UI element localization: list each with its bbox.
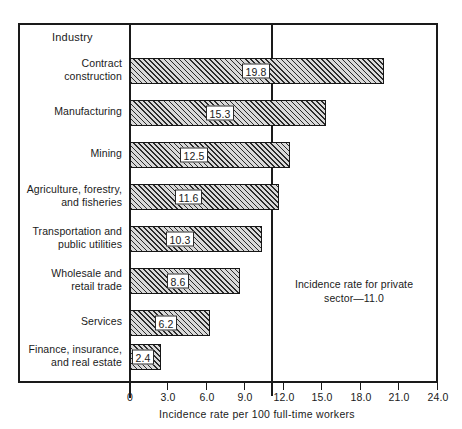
category-label: Mining	[10, 147, 122, 160]
bar-wholesale-retail-trade: 8.6	[130, 268, 240, 294]
x-tick-label: 24.0	[428, 391, 449, 403]
bar-row: Transportation and public utilities 10.3	[0, 223, 462, 259]
x-axis-title: Incidence rate per 100 full-time workers	[0, 408, 462, 420]
bar-value-label: 10.3	[166, 232, 194, 247]
x-tick-mark	[437, 383, 438, 390]
x-tick-label: 21.0	[389, 391, 410, 403]
x-tick-mark	[167, 383, 168, 390]
x-tick-mark	[283, 383, 284, 390]
x-tick-mark	[244, 383, 245, 390]
bar-value-label: 6.2	[155, 316, 177, 331]
bar-value-label: 15.3	[206, 106, 234, 121]
category-label: Wholesale and retail trade	[10, 267, 122, 292]
category-label-line: public utilities	[10, 238, 122, 251]
x-tick-label: 3.0	[161, 391, 176, 403]
category-label-line: Finance, insurance,	[10, 343, 122, 356]
bar-row: Contract construction 19.8	[0, 55, 462, 91]
bar-value-label: 2.4	[132, 350, 154, 365]
category-label-line: Services	[10, 315, 122, 328]
category-label: Services	[10, 315, 122, 328]
bar-value-label: 19.8	[242, 64, 270, 79]
x-tick-mark	[360, 383, 361, 390]
x-tick-label: 15.0	[312, 391, 333, 403]
bar-manufacturing: 15.3	[130, 100, 326, 126]
category-label: Agriculture, forestry, and fisheries	[10, 183, 122, 208]
bar-row: Manufacturing 15.3	[0, 97, 462, 133]
x-tick-label: 6.0	[200, 391, 215, 403]
bar-mining: 12.5	[130, 142, 290, 168]
bar-row: Services 6.2	[0, 307, 462, 343]
category-label: Contract construction	[10, 57, 122, 82]
bar-row: Mining 12.5	[0, 139, 462, 175]
bar-agriculture-forestry-fisheries: 11.6	[130, 184, 279, 210]
reference-line-annotation: Incidence rate for private sector—11.0	[278, 277, 430, 305]
bar-value-label: 11.6	[175, 190, 202, 205]
x-tick-mark	[129, 383, 130, 390]
x-axis-title-text: Incidence rate per 100 full-time workers	[159, 408, 355, 420]
category-label-line: Transportation and	[10, 225, 122, 238]
bar-row: Agriculture, forestry, and fisheries 11.…	[0, 181, 462, 217]
category-label: Finance, insurance, and real estate	[10, 343, 122, 368]
category-label-line: and real estate	[10, 356, 122, 369]
category-label: Transportation and public utilities	[10, 225, 122, 250]
category-label-line: Agriculture, forestry,	[10, 183, 122, 196]
x-tick-mark	[398, 383, 399, 390]
category-label-line: Manufacturing	[10, 105, 122, 118]
x-tick-mark	[206, 383, 207, 390]
bar-row: Finance, insurance, and real estate 2.4	[0, 341, 462, 377]
bar-transportation-public-utilities: 10.3	[130, 226, 262, 252]
bar-contract-construction: 19.8	[130, 58, 384, 84]
category-label: Manufacturing	[10, 105, 122, 118]
incidence-rate-bar-chart: Industry Contract construction 19.8 Manu…	[0, 0, 462, 429]
category-label-line: retail trade	[10, 280, 122, 293]
category-label-line: construction	[10, 70, 122, 83]
category-label-line: Mining	[10, 147, 122, 160]
annotation-line: Incidence rate for private	[278, 277, 430, 291]
x-tick-mark	[321, 383, 322, 390]
bar-finance-insurance-real-estate: 2.4	[130, 344, 161, 370]
x-tick-label: 9.0	[238, 391, 253, 403]
bar-services: 6.2	[130, 310, 210, 336]
bar-value-label: 8.6	[167, 274, 189, 289]
category-label-line: Contract	[10, 57, 122, 70]
x-tick-label: 18.0	[351, 391, 372, 403]
bar-value-label: 12.5	[180, 148, 208, 163]
category-label-line: Wholesale and	[10, 267, 122, 280]
x-tick-label: 12.0	[274, 391, 295, 403]
annotation-line: sector—11.0	[278, 291, 430, 305]
x-tick-label: 0	[127, 391, 133, 403]
category-axis-title: Industry	[52, 31, 93, 43]
category-label-line: and fisheries	[10, 196, 122, 209]
